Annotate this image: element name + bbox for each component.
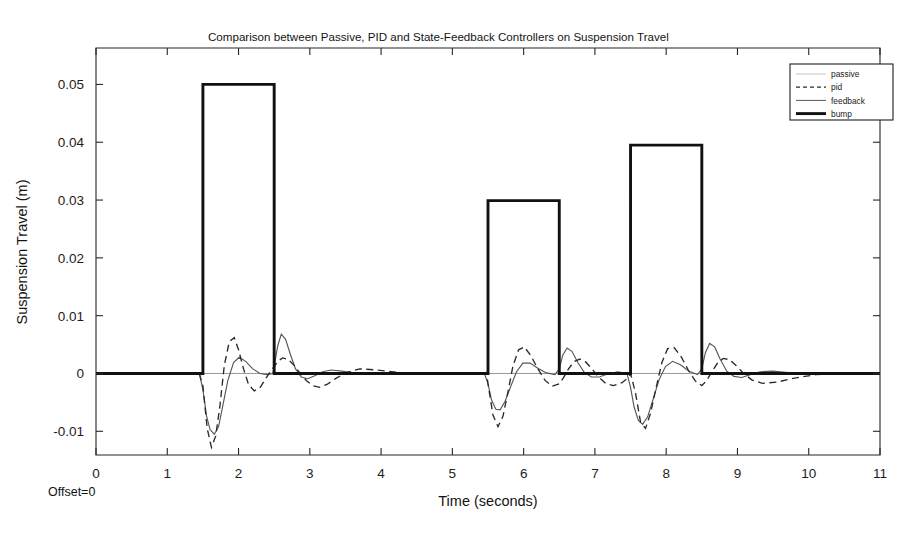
- x-axis-title: Time (seconds): [438, 493, 537, 509]
- legend-label-feedback[interactable]: feedback: [831, 96, 866, 106]
- y-tick-label: 0.05: [58, 77, 84, 92]
- y-tick-label: -0.01: [53, 424, 84, 439]
- x-tick-label: 7: [591, 466, 599, 481]
- x-tick-label: 0: [92, 466, 100, 481]
- figure-canvas: 01234567891011-0.0100.010.020.030.040.05…: [0, 0, 911, 543]
- offset-annotation: Offset=0: [48, 485, 95, 499]
- x-tick-label: 9: [734, 466, 742, 481]
- y-tick-label: 0.03: [58, 193, 84, 208]
- x-tick-label: 8: [662, 466, 670, 481]
- y-tick-label: 0: [76, 366, 84, 381]
- legend-label-bump[interactable]: bump: [831, 109, 852, 119]
- x-tick-label: 5: [449, 466, 457, 481]
- y-tick-label: 0.01: [58, 309, 84, 324]
- x-tick-label: 1: [164, 466, 172, 481]
- suspension-travel-chart: 01234567891011-0.0100.010.020.030.040.05…: [0, 0, 911, 543]
- x-tick-label: 3: [306, 466, 314, 481]
- x-tick-label: 2: [235, 466, 243, 481]
- y-tick-label: 0.02: [58, 251, 84, 266]
- legend-label-passive[interactable]: passive: [831, 69, 860, 79]
- x-tick-label: 4: [377, 466, 385, 481]
- y-axis-title: Suspension Travel (m): [14, 179, 30, 324]
- legend-label-pid[interactable]: pid: [831, 82, 843, 92]
- x-tick-label: 10: [801, 466, 816, 481]
- chart-legend[interactable]: passivepidfeedbackbump: [790, 64, 893, 120]
- y-tick-label: 0.04: [58, 135, 85, 150]
- chart-title: Comparison between Passive, PID and Stat…: [208, 30, 669, 43]
- x-tick-label: 11: [873, 466, 887, 481]
- x-tick-label: 6: [520, 466, 528, 481]
